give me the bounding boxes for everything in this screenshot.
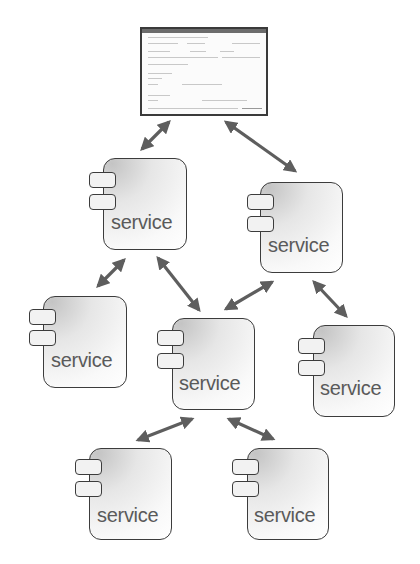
service-node-7 <box>247 448 329 540</box>
service-port-icon <box>89 172 116 188</box>
form-line <box>232 43 260 44</box>
service-node-4 <box>172 318 255 410</box>
form-line <box>190 51 206 52</box>
arrow-s1-s3 <box>98 260 124 286</box>
arrow-s4-s6 <box>138 419 192 440</box>
form-line <box>148 37 208 38</box>
service-label: service <box>179 373 240 393</box>
form-line <box>148 43 178 44</box>
form-line <box>148 73 172 74</box>
service-port-icon <box>232 459 259 475</box>
service-port-icon <box>29 330 56 346</box>
service-port-icon <box>75 481 102 497</box>
service-label: service <box>320 378 381 398</box>
arrow-client-s2 <box>226 122 295 171</box>
service-port-icon <box>29 309 56 325</box>
service-port-icon <box>247 216 274 232</box>
form-line <box>148 78 162 79</box>
service-port-icon <box>89 194 116 210</box>
service-port-icon <box>75 459 102 475</box>
service-port-icon <box>298 360 325 376</box>
service-port-icon <box>298 338 325 354</box>
arrow-client-s1 <box>142 122 169 149</box>
diagram-canvas: service service service service service … <box>0 0 420 564</box>
form-line <box>148 100 158 101</box>
form-line <box>220 51 234 52</box>
form-line <box>148 64 188 65</box>
service-port-icon <box>232 481 259 497</box>
form-line <box>148 95 170 96</box>
form-line <box>242 108 262 109</box>
form-line <box>148 84 158 85</box>
service-label: service <box>97 505 158 525</box>
arrow-s2-s4 <box>226 282 272 309</box>
service-label: service <box>254 505 315 525</box>
form-line <box>202 100 247 101</box>
service-label: service <box>51 350 112 370</box>
form-line <box>148 108 238 109</box>
window-titlebar <box>142 29 266 33</box>
service-node-5 <box>313 325 395 417</box>
service-label: service <box>111 212 172 232</box>
client-app-window <box>140 27 268 116</box>
form-line <box>148 51 170 52</box>
arrow-s4-s7 <box>229 419 273 439</box>
form-line <box>222 57 260 58</box>
service-port-icon <box>157 353 184 369</box>
service-port-icon <box>247 194 274 210</box>
arrow-s2-s5 <box>314 282 346 316</box>
arrow-s1-s4 <box>158 258 199 310</box>
form-line <box>182 84 222 85</box>
service-label: service <box>268 235 329 255</box>
form-line <box>148 57 218 58</box>
form-line <box>187 43 205 44</box>
service-port-icon <box>157 330 184 346</box>
